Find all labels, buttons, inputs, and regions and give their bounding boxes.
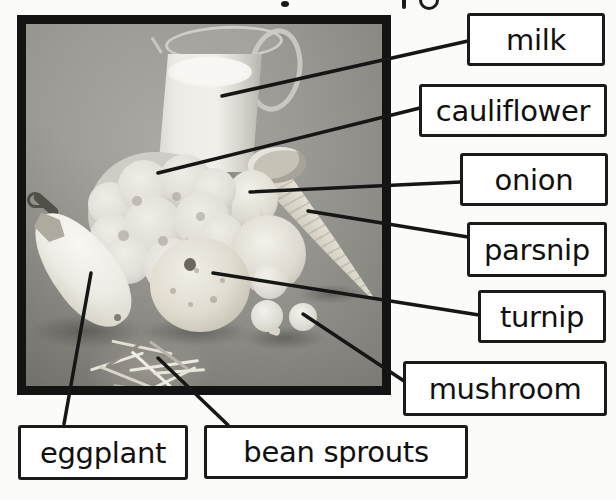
label-text-eggplant: eggplant (40, 436, 166, 470)
leader-line-bean-sprouts (158, 358, 228, 425)
page: milk cauliflower onion parsnip turnip mu… (0, 0, 616, 500)
leader-line-parsnip (308, 211, 468, 237)
label-box-turnip: turnip (478, 290, 606, 343)
label-box-milk: milk (467, 13, 605, 66)
label-text-milk: milk (506, 23, 566, 57)
leader-line-eggplant (64, 273, 91, 424)
label-text-parsnip: parsnip (484, 233, 590, 267)
label-text-turnip: turnip (500, 300, 584, 334)
label-box-onion: onion (460, 153, 608, 206)
label-box-bean-sprouts: bean sprouts (204, 425, 468, 479)
label-box-parsnip: parsnip (467, 222, 607, 277)
leader-line-mushroom (303, 314, 404, 381)
label-box-cauliflower: cauliflower (419, 84, 607, 137)
leader-line-turnip (213, 273, 479, 315)
label-text-bean-sprouts: bean sprouts (243, 435, 428, 469)
label-text-mushroom: mushroom (429, 372, 582, 406)
leader-line-cauliflower (158, 108, 420, 173)
leader-line-onion (250, 182, 461, 192)
label-text-cauliflower: cauliflower (436, 94, 590, 128)
label-text-onion: onion (495, 163, 574, 197)
label-box-mushroom: mushroom (403, 361, 607, 416)
label-box-eggplant: eggplant (18, 425, 188, 480)
